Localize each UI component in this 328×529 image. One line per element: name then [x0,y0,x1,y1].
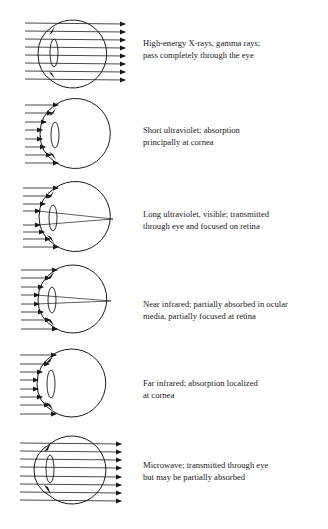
caption: Far infrared; absorption localized at co… [143,377,258,401]
caption-line-2: but may be partially absorbed [143,471,268,483]
panel-xray-gamma: High-energy X-rays, gamma rays; pass com… [0,0,328,90]
caption: Long ultraviolet, visible; transmitted t… [143,208,269,232]
eye-focused-retina-icon [0,260,140,342]
caption-line-1: Short ultraviolet; absorption [143,124,240,136]
caption-line-1: Near infrared; partially absorbed in ocu… [143,298,288,310]
panel-long-uv-visible: Long ultraviolet, visible; transmitted t… [0,175,328,260]
panel-short-uv: Short ultraviolet; absorption principall… [0,90,328,175]
caption-line-2: at cornea [143,389,258,401]
eye-cornea-absorption-icon [0,342,140,427]
caption-line-1: Far infrared; absorption localized [143,377,258,389]
caption-line-2: pass completely through the eye [143,49,260,61]
caption: Short ultraviolet; absorption principall… [143,124,240,148]
panel-microwave: Microwave; transmitted through eye but m… [0,427,328,529]
caption: High-energy X-rays, gamma rays; pass com… [143,37,260,61]
eye-focused-retina-icon [0,175,140,260]
caption-line-1: Long ultraviolet, visible; transmitted [143,208,269,220]
eye-pass-through-icon [0,0,140,90]
caption-line-2: media, partially focused at retina [143,310,288,322]
eye-cornea-absorption-icon [0,90,140,175]
caption-line-2: principally at cornea [143,136,240,148]
caption-line-1: High-energy X-rays, gamma rays; [143,37,260,49]
caption-line-1: Microwave; transmitted through eye [143,459,268,471]
caption: Microwave; transmitted through eye but m… [143,459,268,483]
panel-far-infrared: Far infrared; absorption localized at co… [0,342,328,427]
eye-pass-through-icon [0,427,140,527]
caption: Near infrared; partially absorbed in ocu… [143,298,288,322]
panel-near-infrared: Near infrared; partially absorbed in ocu… [0,260,328,342]
caption-line-2: through eye and focused on retina [143,220,269,232]
